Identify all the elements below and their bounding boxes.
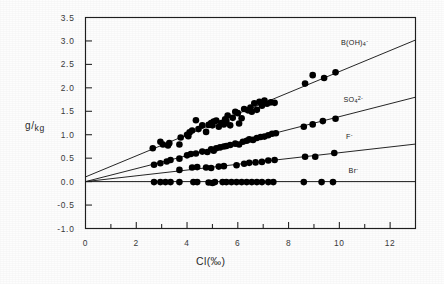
x-axis-label: Cl(‰) — [196, 255, 225, 267]
y-tick-label: 3.5 — [0, 13, 75, 23]
y-tick-label: 2.5 — [0, 59, 75, 69]
series-label-so42: SO42- — [344, 95, 364, 104]
y-tick-label: 1.5 — [0, 106, 75, 116]
y-tick-label: -1.0 — [0, 224, 75, 234]
y-tick-label: 3.0 — [0, 36, 75, 46]
series-label-br: Br- — [349, 166, 359, 175]
data-points — [149, 69, 338, 186]
chart-figure: g/kg Cl(‰) -1.0-0.50.00.51.01.52.02.53.0… — [0, 0, 444, 284]
plot-frame — [86, 18, 416, 229]
y-tick-label: 0.5 — [0, 153, 75, 163]
y-tick-label: 0.0 — [0, 177, 75, 187]
series-label-boh4: B(OH)4- — [341, 38, 368, 47]
x-tick-label: 2 — [116, 238, 156, 248]
x-tick-label: 12 — [370, 238, 410, 248]
y-tick-label: -0.5 — [0, 200, 75, 210]
x-tick-label: 0 — [66, 238, 106, 248]
x-tick-label: 4 — [167, 238, 207, 248]
y-tick-label: 1.0 — [0, 130, 75, 140]
series-label-f: F- — [346, 132, 353, 141]
x-tick-label: 8 — [269, 238, 309, 248]
x-tick-label: 6 — [218, 238, 258, 248]
x-tick-label: 10 — [319, 238, 359, 248]
y-tick-label: 2.0 — [0, 83, 75, 93]
